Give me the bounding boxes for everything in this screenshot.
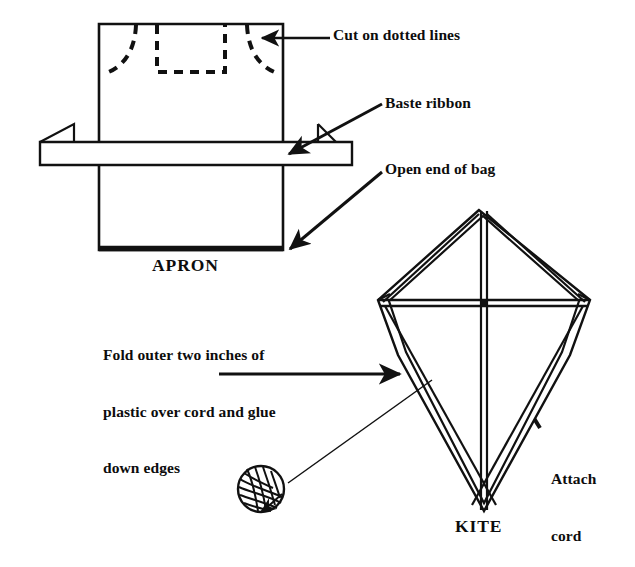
cord-line: [288, 380, 432, 483]
label-baste-ribbon: Baste ribbon: [385, 94, 471, 113]
label-attach-cord: Attach cord: [551, 432, 596, 567]
apron-diagram: [40, 24, 352, 250]
label-fold-instruction-line2: plastic over cord and glue: [103, 403, 276, 422]
arrow-open-end-of-bag: [290, 172, 382, 249]
label-cut-on-dotted-lines: Cut on dotted lines: [333, 26, 460, 45]
label-attach-cord-line2: cord: [551, 527, 596, 546]
label-apron: APRON: [152, 255, 219, 276]
label-kite: KITE: [455, 516, 502, 537]
ribbon-folded-end: [40, 124, 74, 142]
label-attach-cord-line1: Attach: [551, 470, 596, 489]
label-open-end-of-bag: Open end of bag: [385, 160, 495, 179]
label-fold-instruction-line1: Fold outer two inches of: [103, 346, 276, 365]
craft-diagram-svg: [0, 0, 635, 567]
label-fold-instruction-line3: down edges: [103, 459, 276, 478]
kite-center-hub: [481, 300, 488, 307]
figure-canvas: Cut on dotted lines Baste ribbon Open en…: [0, 0, 635, 567]
label-fold-instruction: Fold outer two inches of plastic over co…: [103, 308, 276, 516]
